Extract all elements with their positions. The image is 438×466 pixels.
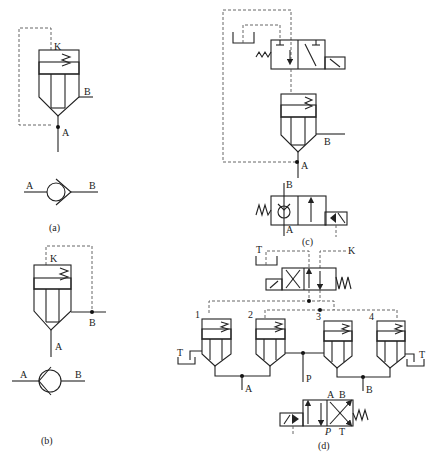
hydraulic-diagram: K B A A B (a) K B A A B (b) [0, 0, 438, 466]
cartridge-4: 4 [369, 311, 405, 368]
panel-d: T K 1 2 [177, 244, 425, 452]
svg-text:2: 2 [248, 309, 253, 320]
svg-text:B: B [286, 179, 293, 190]
svg-text:K: K [50, 253, 58, 264]
panel-c: B A B A (c) [223, 10, 347, 248]
svg-text:1: 1 [195, 309, 200, 320]
svg-text:K: K [348, 245, 356, 256]
svg-text:B: B [84, 86, 91, 97]
cartridge-1: 1 [195, 309, 231, 366]
svg-text:(a): (a) [49, 222, 60, 234]
svg-text:B: B [89, 317, 96, 328]
svg-text:3: 3 [316, 311, 321, 322]
svg-text:B: B [366, 384, 373, 395]
svg-text:A: A [327, 389, 335, 400]
svg-text:A: A [55, 341, 63, 352]
svg-text:(c): (c) [302, 236, 313, 248]
svg-text:B: B [324, 136, 331, 147]
svg-text:A: A [62, 127, 70, 138]
cartridge-3: 3 [316, 311, 352, 368]
svg-text:T: T [339, 426, 345, 437]
svg-text:(b): (b) [41, 435, 53, 447]
svg-text:T: T [177, 347, 183, 358]
svg-text:A: A [301, 160, 309, 171]
panel-b: K B A A B (b) [12, 246, 106, 447]
svg-text:T: T [256, 244, 262, 255]
svg-text:K: K [54, 41, 62, 52]
svg-text:4: 4 [369, 311, 374, 322]
svg-text:B: B [89, 180, 96, 191]
svg-text:A: A [26, 180, 34, 191]
panel-a: K B A A B (a) [19, 28, 98, 234]
svg-text:A: A [245, 383, 253, 394]
svg-text:P: P [324, 426, 331, 437]
svg-text:A: A [20, 369, 28, 380]
cartridge-2: 2 [248, 309, 285, 366]
svg-text:B: B [75, 369, 82, 380]
svg-text:A: A [286, 224, 294, 235]
svg-text:T: T [419, 349, 425, 360]
svg-text:B: B [339, 389, 346, 400]
svg-text:(d): (d) [318, 440, 330, 452]
svg-text:P: P [306, 373, 312, 384]
